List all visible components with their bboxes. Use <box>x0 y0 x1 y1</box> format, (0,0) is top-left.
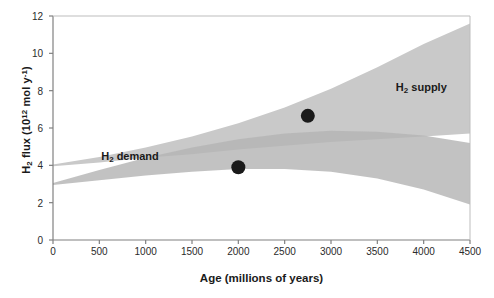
chart-figure: H2 flux (1012 mol y-1) Age (millions of … <box>0 0 494 298</box>
h2-supply-label: H2 supply <box>396 81 448 95</box>
data-point[interactable] <box>301 109 315 123</box>
band-group <box>53 23 470 204</box>
data-point[interactable] <box>231 160 245 174</box>
h2-demand-label: H2 demand <box>101 150 159 164</box>
h2-demand-band <box>53 131 470 205</box>
plot-area: H2 demandH2 supply <box>0 0 494 298</box>
